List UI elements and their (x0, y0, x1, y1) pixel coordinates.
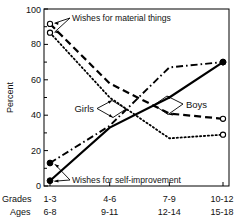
x-axis-grades-row: Grades 1-3 4-6 7-9 10-12 (2, 194, 234, 204)
marker-material-girls-0 (47, 30, 52, 35)
marker-selfimp-boys-3 (220, 59, 226, 65)
x-age-1: 9-11 (101, 207, 118, 217)
y-tick-0: 0 (36, 181, 41, 191)
y-tick-100: 100 (26, 5, 41, 15)
x-grade-3: 10-12 (210, 194, 233, 204)
x-age-0: 6-8 (43, 207, 56, 217)
series-label-boys: Boys (186, 99, 207, 110)
x-age-3: 15-18 (210, 207, 233, 217)
x-grade-0: 1-3 (43, 194, 56, 204)
y-tick-60: 60 (31, 75, 41, 85)
y-tick-20: 20 (31, 146, 41, 156)
x-grade-2: 7-9 (163, 194, 176, 204)
x-axis-ages-row: Ages 6-8 9-11 12-14 15-18 (10, 207, 234, 217)
marker-selfimp-girls-0 (47, 160, 53, 166)
annotation-selfimp-label: Wishes for self-improvement (72, 175, 181, 185)
chart-container: 0 20 40 60 80 100 Percent (0, 0, 240, 224)
y-tick-80: 80 (31, 39, 41, 49)
marker-material-boys-3 (220, 116, 225, 121)
x-grade-1: 4-6 (103, 194, 116, 204)
annotation-material-label: Wishes for material things (72, 13, 171, 23)
series-label-girls: Girls (74, 103, 94, 114)
marker-material-girls-3 (220, 132, 225, 137)
y-tick-labels: 0 20 40 60 80 100 (26, 5, 41, 192)
x-age-2: 12-14 (158, 207, 181, 217)
line-chart: 0 20 40 60 80 100 Percent (0, 0, 240, 224)
marker-material-boys-0 (47, 21, 52, 26)
x-row-head-grades: Grades (2, 194, 32, 204)
y-tick-40: 40 (31, 110, 41, 120)
y-axis-title: Percent (5, 81, 15, 113)
x-row-head-ages: Ages (10, 207, 31, 217)
marker-selfimp-boys-0 (47, 178, 53, 184)
